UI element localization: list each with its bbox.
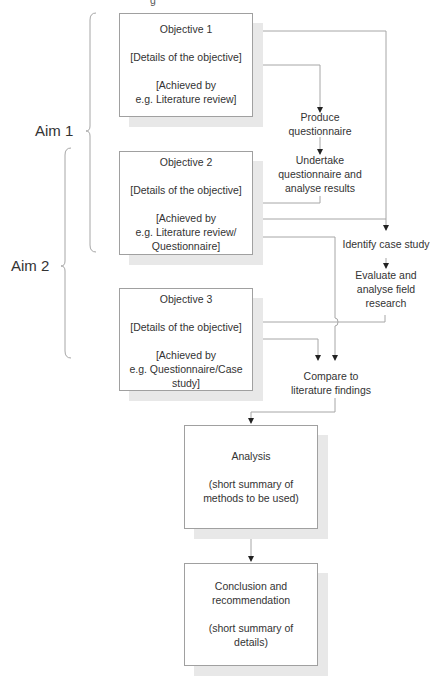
aim2-brace: [61, 148, 71, 358]
step-evaluate-field-research: Evaluate and analyse field research: [336, 268, 436, 310]
conclusion-title-2: recommendation: [185, 593, 317, 607]
objective-1-details: [Details of the objective]: [120, 50, 252, 64]
aim-2-label: Aim 2: [11, 257, 49, 274]
objective-1-box: Objective 1 [Details of the objective] […: [119, 13, 253, 117]
objective-3-achieved-3: study]: [120, 376, 252, 390]
conclusion-title-1: Conclusion and: [185, 579, 317, 593]
analysis-box: Analysis (short summary of methods to be…: [184, 425, 318, 529]
objective-3-details: [Details of the objective]: [120, 320, 252, 334]
objective-1-title: Objective 1: [120, 22, 252, 36]
objective-2-achieved-1: [Achieved by: [120, 211, 252, 225]
objective-2-details: [Details of the objective]: [120, 183, 252, 197]
objective-2-achieved-3: Questionnaire]: [120, 239, 252, 253]
objective-2-achieved-2: e.g. Literature review/: [120, 225, 252, 239]
objective-3-box: Objective 3 [Details of the objective] […: [119, 288, 253, 391]
step-produce-questionnaire: Produce questionnaire: [270, 110, 370, 138]
conclusion-box: Conclusion and recommendation (short sum…: [184, 563, 318, 666]
objective-2-title: Objective 2: [120, 155, 252, 169]
aim-1-label: Aim 1: [35, 122, 73, 139]
objective-1-achieved-1: [Achieved by: [120, 78, 252, 92]
analysis-title: Analysis: [185, 449, 317, 463]
objective-3-achieved-1: [Achieved by: [120, 348, 252, 362]
analysis-summary-1: (short summary of: [185, 477, 317, 491]
aim1-brace: [86, 13, 96, 252]
step-compare-literature: Compare to literature findings: [276, 369, 386, 397]
objective-3-title: Objective 3: [120, 292, 252, 306]
objective-3-achieved-2: e.g. Questionnaire/Case: [120, 362, 252, 376]
step-undertake-questionnaire: Undertake questionnaire and analyse resu…: [270, 153, 370, 195]
step-identify-case-study: Identify case study: [330, 237, 442, 251]
objective-1-achieved-2: e.g. Literature review]: [120, 92, 252, 106]
analysis-summary-2: methods to be used): [185, 491, 317, 505]
conclusion-summary-2: details): [185, 635, 317, 649]
conclusion-summary-1: (short summary of: [185, 621, 317, 635]
objective-2-box: Objective 2 [Details of the objective] […: [119, 151, 253, 255]
